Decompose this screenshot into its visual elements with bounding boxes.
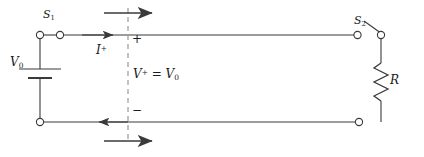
bottom-right-node xyxy=(355,118,362,125)
label-switch-s1: S1 xyxy=(43,9,55,21)
switch-s1[interactable] xyxy=(36,31,63,38)
bottom-left-node xyxy=(36,118,43,125)
polarity-plus-sign: + xyxy=(132,33,142,45)
switch-s2-left-terminal xyxy=(354,31,361,38)
switch-s1-right-terminal xyxy=(56,31,63,38)
label-resistor: R xyxy=(390,74,399,86)
label-line-voltage: V+ = V0 xyxy=(133,68,179,81)
dc-voltage-source xyxy=(19,35,61,122)
switch-s1-left-terminal xyxy=(36,31,43,38)
label-current: I+ xyxy=(96,44,107,56)
label-source-voltage: V0 xyxy=(10,56,23,69)
label-switch-s2: S2 xyxy=(354,15,366,27)
switch-s2-blade-open xyxy=(364,21,379,32)
resistor-zigzag xyxy=(374,63,388,101)
polarity-minus-sign: − xyxy=(132,104,142,116)
switch-s2-right-terminal xyxy=(377,31,384,38)
load-resistor xyxy=(374,39,388,122)
figure-canvas: S1 S2 V0 I+ V+ = V0 R + − xyxy=(0,0,424,157)
